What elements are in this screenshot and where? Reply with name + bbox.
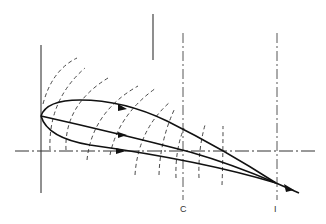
airfoil-lower-surface [41,116,276,183]
flow-arrows [116,104,127,154]
station-i-label: I [274,205,277,214]
station-c-label: C [180,205,187,214]
wavefront-arcs [43,58,223,185]
arrow-mean-icon [118,132,127,138]
airfoil-streamline-diagram [0,0,326,224]
